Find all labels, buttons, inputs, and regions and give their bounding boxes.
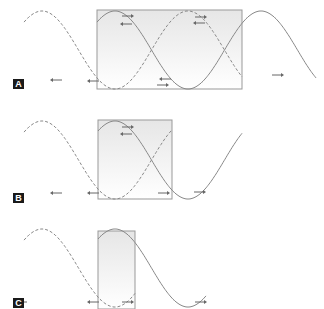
- arrow-left-icon: [87, 191, 99, 195]
- standing-wave-diagram: [0, 0, 324, 309]
- panel-label-b: B: [13, 193, 24, 203]
- arrow-left-icon: [50, 78, 62, 82]
- medium-box-c: [98, 231, 135, 309]
- panel-label-c: C: [13, 298, 24, 308]
- panel-label-a: A: [13, 79, 24, 89]
- medium-box-b: [98, 120, 172, 199]
- arrow-left-icon: [87, 300, 99, 304]
- arrow-right-icon: [272, 73, 284, 77]
- arrow-left-icon: [50, 191, 62, 195]
